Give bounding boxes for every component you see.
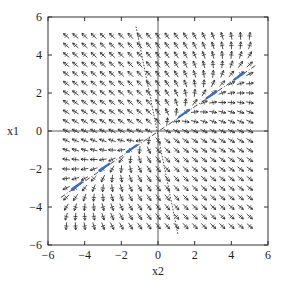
y-tick-label: −4 (29, 200, 42, 214)
y-axis-label: x1 (7, 124, 19, 138)
zero-axis-lines (48, 17, 268, 245)
trajectory-marker (234, 73, 244, 80)
x-axis-label: x2 (152, 264, 164, 278)
x-tick-label: −4 (78, 248, 91, 262)
y-tick-label: 2 (36, 86, 42, 100)
trajectory-marker (99, 164, 109, 171)
trajectory-marker (72, 182, 82, 189)
axis-ticks: −6−4−20246−6−4−20246 (29, 10, 271, 262)
x-tick-label: 6 (265, 248, 271, 262)
y-tick-label: 4 (36, 48, 42, 62)
y-tick-label: 6 (36, 10, 42, 24)
trajectory-marker (207, 91, 217, 98)
trajectory-marker (179, 110, 189, 117)
x-tick-label: −6 (42, 248, 55, 262)
trajectory-marker (127, 145, 137, 152)
y-tick-label: 0 (36, 124, 42, 138)
x-tick-label: 0 (155, 248, 161, 262)
y-tick-label: −2 (29, 162, 42, 176)
phase-portrait-chart: −6−4−20246−6−4−20246 x2 x1 (0, 0, 285, 288)
x-tick-label: −2 (115, 248, 128, 262)
x-tick-label: 2 (192, 248, 198, 262)
x-tick-label: 4 (228, 248, 234, 262)
y-tick-label: −6 (29, 238, 42, 252)
